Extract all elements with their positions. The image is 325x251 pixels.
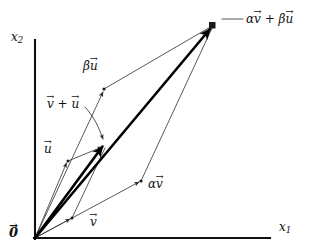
vector-alpha-v-arrow (35, 182, 139, 238)
v-label: v (90, 216, 97, 228)
vector-diagram-figure: x2 x1 0 βu v + u u αv v αv + βu (0, 0, 325, 251)
v-label-text: v (90, 216, 97, 228)
y-axis-label-subscript: 2 (18, 35, 24, 45)
vertex-dot-u (67, 160, 70, 163)
alpha-v-label: αv (148, 178, 163, 190)
annotation-leaders-group (85, 19, 243, 139)
apex-label-text: αv + βu (246, 12, 293, 26)
apex-label: αv + βu (246, 13, 293, 25)
origin-label: 0 (9, 226, 18, 239)
axes-group (34, 40, 270, 239)
figure-canvas (0, 0, 325, 251)
alpha-v-label-text: αv (148, 177, 163, 191)
u-label: u (44, 143, 52, 155)
vector-combination-bold-arrow (35, 29, 210, 238)
vertex-dot-apex (209, 22, 216, 29)
u-label-text: u (44, 143, 52, 155)
vector-construction-group (35, 22, 216, 238)
vertex-dot-v (71, 217, 74, 220)
vertex-dot-alpha-v (139, 179, 142, 182)
side-beta-u-to-apex (104, 26, 212, 89)
beta-u-label-text: βu (83, 59, 98, 73)
vertex-dot-beta-u (102, 87, 105, 90)
x-axis-label-subscript: 1 (286, 225, 292, 235)
origin-label-text: 0 (9, 226, 18, 239)
v-plus-u-label: v + u (47, 98, 79, 110)
y-axis-label: x2 (11, 31, 23, 45)
v-plus-u-label-text: v + u (47, 97, 79, 111)
x-axis-label-text: x (279, 220, 286, 234)
side-alpha-v-to-apex (141, 26, 213, 181)
x-axis-label: x1 (279, 221, 291, 235)
beta-u-label: βu (83, 60, 98, 72)
y-axis-label-text: x (11, 30, 18, 44)
